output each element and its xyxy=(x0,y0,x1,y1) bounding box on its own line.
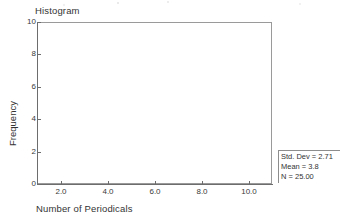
x-tick-label-6: 6.0 xyxy=(135,187,175,196)
y-tick-8: 8 xyxy=(0,49,36,59)
x-tick-mark xyxy=(249,181,250,184)
y-tick-10: 10 xyxy=(0,17,36,27)
stat-std-dev: Std. Dev = 2.71 xyxy=(281,152,340,162)
x-tick-label-2: 2.0 xyxy=(41,187,81,196)
y-tick-mark xyxy=(38,119,41,120)
x-tick-mark xyxy=(202,181,203,184)
x-tick-label-4: 4.0 xyxy=(88,187,128,196)
histogram-figure: Histogram 10 8 6 4 2 0 Frequency 2.0 4.0… xyxy=(0,0,342,222)
y-tick-mark xyxy=(38,22,41,23)
x-tick-mark xyxy=(61,181,62,184)
y-tick-label: 10 xyxy=(6,17,36,26)
chart-title: Histogram xyxy=(35,5,80,16)
y-tick-mark xyxy=(38,152,41,153)
stat-mean: Mean = 3.8 xyxy=(281,162,340,172)
x-tick-label-10: 10.0 xyxy=(229,187,269,196)
x-tick-label-8: 8.0 xyxy=(182,187,222,196)
statistics-box: Std. Dev = 2.71 Mean = 3.8 N = 25.00 xyxy=(278,150,340,183)
x-axis-spine xyxy=(37,184,273,185)
plot-area xyxy=(38,23,271,183)
y-tick-label: 0 xyxy=(6,179,36,188)
y-tick-mark xyxy=(38,87,41,88)
y-tick-mark xyxy=(38,54,41,55)
y-tick-6: 6 xyxy=(0,82,36,92)
plot-frame xyxy=(37,22,272,184)
y-tick-0: 0 xyxy=(0,179,36,189)
y-axis-spine xyxy=(37,22,38,185)
x-tick-mark xyxy=(155,181,156,184)
x-axis-title: Number of Periodicals xyxy=(36,203,133,214)
y-axis-title: Frequency xyxy=(7,84,18,164)
stat-n: N = 25.00 xyxy=(281,172,340,182)
y-tick-2: 2 xyxy=(0,147,36,157)
y-tick-label: 8 xyxy=(6,49,36,58)
x-tick-mark xyxy=(108,181,109,184)
y-tick-4: 4 xyxy=(0,114,36,124)
